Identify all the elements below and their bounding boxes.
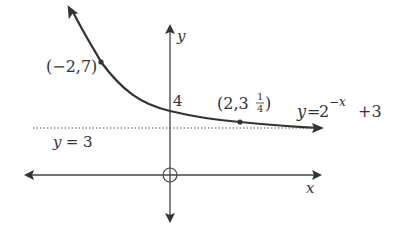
y-intercept-label: 4 [173,92,183,110]
curve-arrow-up-icon [68,4,79,19]
point-2-3quarter [237,119,242,124]
svg-text:2: 2 [319,102,329,121]
svg-text:1: 1 [257,91,263,102]
svg-text:+3: +3 [358,102,382,121]
equation-label: y = 2 −x +3 [296,95,382,121]
svg-text:(2,3: (2,3 [217,94,249,113]
svg-text:4: 4 [257,103,263,114]
y-axis-label: y [176,27,186,45]
asymptote-label: y = 3 [52,133,93,151]
function-curve [72,10,320,128]
point-neg2-7 [98,59,103,64]
svg-text:y: y [296,102,307,121]
svg-text:−x: −x [329,95,346,109]
svg-text:): ) [265,94,271,113]
x-axis-label: x [306,179,315,197]
point-label-2-3quarter: (2,3 1 4 ) [217,91,271,114]
graph: (−2,7) (2,3 1 4 ) y = 2 −x +3 4 y = 3 y … [0,0,401,227]
svg-text:= 3: = 3 [61,133,93,151]
point-label-neg2-7: (−2,7) [46,57,97,76]
